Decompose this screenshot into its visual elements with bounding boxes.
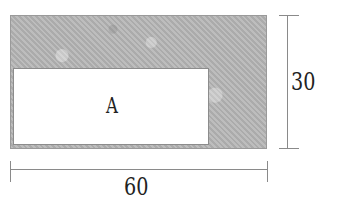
width-dimension-line [10, 169, 267, 170]
rectangle-label: A [103, 93, 121, 118]
width-dimension-right-tick [267, 161, 268, 182]
height-dimension-line [287, 15, 288, 149]
height-dimension-bottom-tick [279, 148, 299, 149]
height-dimension-top-tick [279, 15, 299, 16]
width-dimension-left-tick [10, 161, 11, 182]
width-dimension-label: 60 [124, 173, 148, 201]
height-dimension-label: 30 [291, 68, 315, 96]
